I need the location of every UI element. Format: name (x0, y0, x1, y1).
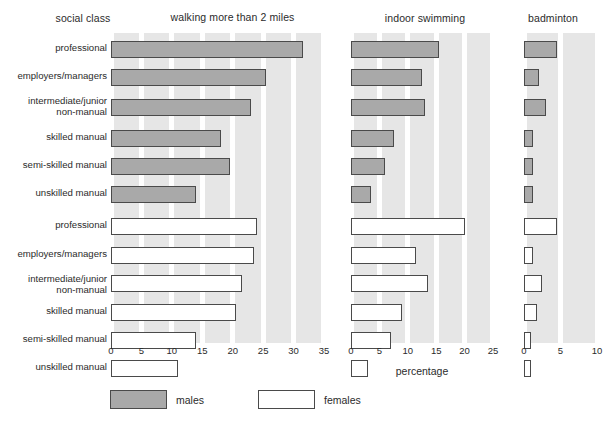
grid-band (439, 33, 462, 343)
category-label: skilled manual (3, 306, 107, 317)
axis-tick-label: 25 (488, 345, 499, 356)
chart-container: social class walking more than 2 miles i… (0, 0, 605, 424)
x-axis-walking: 05101520253035 (111, 345, 324, 361)
grid-band (563, 33, 595, 343)
x-axis-swimming: 0510152025 (351, 345, 493, 361)
bar-females-0 (524, 218, 557, 235)
category-label: unskilled manual (3, 188, 107, 199)
axis-tick-label: 15 (431, 345, 442, 356)
panel-walking (111, 33, 324, 343)
axis-tick-label: 25 (258, 345, 269, 356)
legend-item-females: females (258, 390, 388, 410)
bar-females-3 (524, 304, 537, 321)
category-label: employers/managers (3, 71, 107, 82)
bar-females-2 (111, 275, 242, 292)
bar-females-5 (111, 360, 178, 377)
category-label: intermediate/junior non-manual (3, 274, 107, 295)
category-label: employers/managers (3, 249, 107, 260)
legend-item-males: males (110, 390, 230, 410)
bar-males-5 (351, 186, 371, 203)
grid-band (296, 33, 321, 343)
bar-males-1 (351, 69, 422, 86)
bar-females-3 (111, 304, 236, 321)
bar-males-0 (111, 41, 303, 58)
bar-males-5 (111, 186, 196, 203)
category-label: semi-skilled manual (3, 160, 107, 171)
bar-females-1 (111, 247, 254, 264)
axis-tick-label: 0 (108, 345, 113, 356)
legend-swatch-males (110, 390, 167, 409)
axis-tick-label: 0 (348, 345, 353, 356)
bar-males-4 (351, 158, 385, 175)
bar-females-0 (111, 218, 257, 235)
category-label: professional (3, 220, 107, 231)
swimming-panel-header: indoor swimming (355, 12, 495, 24)
bar-males-0 (524, 41, 557, 58)
axis-tick-label: 20 (459, 345, 470, 356)
axis-tick-label: 10 (592, 345, 603, 356)
bar-females-5 (524, 360, 531, 377)
category-label: professional (3, 43, 107, 54)
category-label: skilled manual (3, 132, 107, 143)
bar-males-1 (111, 69, 266, 86)
axis-tick-label: 0 (521, 345, 526, 356)
bar-males-3 (351, 130, 394, 147)
bar-males-3 (111, 130, 221, 147)
axis-tick-label: 5 (558, 345, 563, 356)
axis-tick-label: 10 (403, 345, 414, 356)
axis-tick-label: 15 (197, 345, 208, 356)
bar-females-2 (351, 275, 428, 292)
category-label-column: professionalemployers/managersintermedia… (0, 0, 107, 360)
grid-band (266, 33, 291, 343)
axis-tick-label: 30 (288, 345, 299, 356)
walking-panel-header: walking more than 2 miles (135, 11, 330, 23)
bar-males-2 (524, 99, 546, 116)
bar-females-3 (351, 304, 402, 321)
axis-tick-label: 20 (227, 345, 238, 356)
legend-label-males: males (176, 394, 204, 406)
bar-females-2 (524, 275, 542, 292)
category-label: semi-skilled manual (3, 334, 107, 345)
bar-females-1 (351, 247, 416, 264)
category-label: unskilled manual (3, 362, 107, 373)
panel-swimming (351, 33, 493, 343)
bar-males-1 (524, 69, 539, 86)
bar-males-2 (111, 99, 251, 116)
axis-tick-label: 5 (139, 345, 144, 356)
x-axis-badminton: 0510 (524, 345, 597, 361)
badminton-panel-header: badminton (508, 12, 598, 24)
bar-females-0 (351, 218, 465, 235)
bar-males-5 (524, 186, 533, 203)
category-label: intermediate/junior non-manual (3, 96, 107, 117)
bar-males-0 (351, 41, 439, 58)
panel-badminton (524, 33, 597, 343)
bar-females-1 (524, 247, 533, 264)
x-axis-label: percentage (351, 365, 493, 377)
bar-males-4 (524, 158, 533, 175)
bar-males-4 (111, 158, 230, 175)
legend-swatch-females (258, 390, 315, 409)
axis-tick-label: 5 (377, 345, 382, 356)
bar-males-2 (351, 99, 425, 116)
grid-band (467, 33, 490, 343)
legend-label-females: females (324, 394, 361, 406)
bar-males-3 (524, 130, 533, 147)
axis-tick-label: 35 (319, 345, 330, 356)
axis-tick-label: 10 (167, 345, 178, 356)
